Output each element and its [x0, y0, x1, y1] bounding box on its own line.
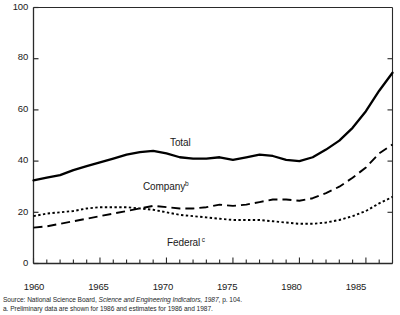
source-title: Science and Engineering Indicators, 1987: [99, 296, 219, 303]
footnote-a: a. Preliminary data are shown for 1986 a…: [3, 305, 400, 314]
figure-line-chart: 100 80 60 40 20 0: [0, 0, 400, 315]
source-line: Source: National Science Board, Science …: [3, 296, 400, 305]
series-label-total: Total: [170, 138, 191, 148]
x-tick-1960: 1960: [24, 281, 44, 292]
x-tick-1965: 1965: [88, 281, 108, 292]
series-label-company: Companyb: [143, 182, 189, 192]
x-tick-marks: [34, 258, 393, 264]
x-tick-1985: 1985: [346, 281, 366, 292]
source-prefix: Source: National Science Board,: [3, 296, 99, 303]
y-tick-marks-right: [388, 59, 393, 213]
axis-frame: [34, 8, 393, 264]
plot-area: 100 80 60 40 20 0: [0, 0, 400, 280]
series-label-federal-text: Federal: [167, 237, 200, 248]
source-suffix: , p. 104.: [219, 296, 242, 303]
series-label-company-marker: b: [185, 180, 189, 187]
x-axis-tick-labels: 1960 1965 1970 1975 1980 1985: [0, 281, 400, 295]
x-tick-1970: 1970: [153, 281, 173, 292]
series-label-federal: Federalc: [167, 238, 205, 248]
series-label-federal-marker: c: [202, 236, 205, 243]
series-line-federal: [34, 197, 393, 224]
y-tick-marks: [34, 8, 39, 264]
series-line-total: [34, 73, 393, 181]
figure-notes: Source: National Science Board, Science …: [3, 296, 400, 313]
series-label-total-text: Total: [170, 137, 191, 148]
x-tick-1975: 1975: [217, 281, 237, 292]
series-label-company-text: Company: [143, 181, 185, 192]
x-tick-1980: 1980: [281, 281, 301, 292]
